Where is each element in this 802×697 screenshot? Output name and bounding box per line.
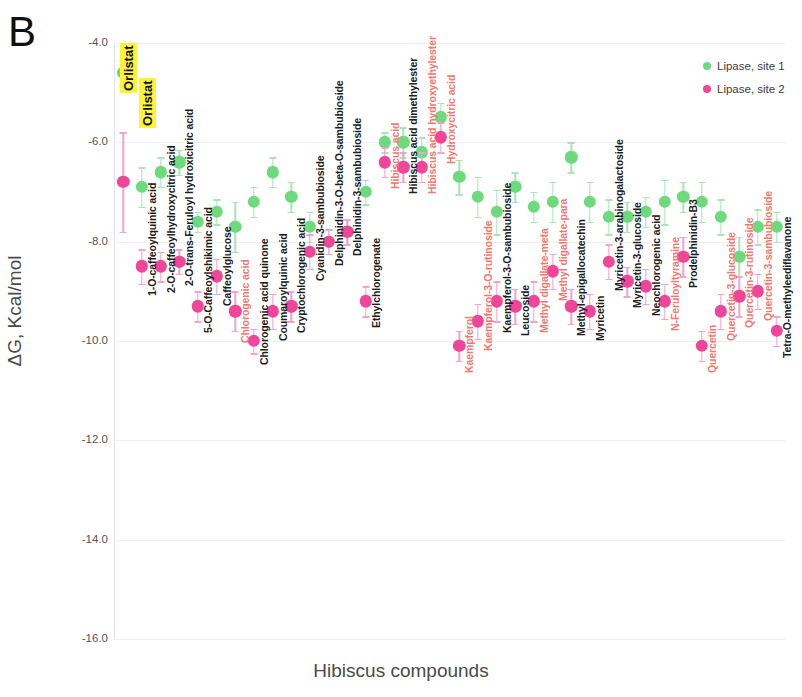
legend-item[interactable]: Lipase, site 1 [703, 60, 785, 72]
error-cap-bottom [699, 361, 706, 362]
error-cap-top [195, 291, 202, 292]
x-axis-label: Hibiscus acid hydroxyethylester [426, 36, 438, 194]
x-axis-label: Ethylchlorogenate [370, 238, 382, 328]
error-cap-bottom [549, 289, 556, 290]
y-tick: -16.0 [42, 632, 108, 646]
marker-site1 [658, 196, 670, 208]
error-cap-bottom [381, 177, 388, 178]
error-cap-bottom [643, 304, 650, 305]
error-cap-top [139, 167, 146, 168]
y-tick: -6.0 [42, 135, 108, 149]
error-cap-bottom [213, 294, 220, 295]
error-cap-top [680, 182, 687, 183]
error-cap-top [549, 182, 556, 183]
error-cap-top [419, 152, 426, 153]
error-cap-top [120, 132, 127, 133]
data-point [449, 160, 469, 195]
error-cap-top [232, 202, 239, 203]
error-cap-top [213, 199, 220, 200]
chart-root: B -4.0-6.0-8.0-10.0-12.0-14.0-16.0 ΔG, K… [0, 0, 802, 697]
legend-item[interactable]: Lipase, site 2 [703, 83, 785, 95]
y-tick-label: -8.0 [46, 235, 108, 247]
data-point [524, 192, 544, 222]
error-cap-bottom [587, 329, 594, 330]
orlistat-annotation: Orlistat [139, 78, 156, 128]
error-cap-bottom [157, 187, 164, 188]
y-tick: -8.0 [42, 235, 108, 249]
error-cap-bottom [755, 244, 762, 245]
error-cap-top [419, 137, 426, 138]
x-axis-label: 5-O-Caffeoylshikimic acid [202, 207, 214, 333]
x-axis-label: N-Feruloyltyramine [669, 237, 681, 331]
error-cap-top [643, 197, 650, 198]
error-cap-top [493, 190, 500, 191]
data-point [561, 142, 581, 172]
marker-site1 [714, 211, 726, 223]
error-cap-bottom [568, 172, 575, 173]
error-cap-top [269, 157, 276, 158]
x-axis-label: Myricetin-3-arabinogalactoside [613, 139, 625, 291]
error-cap-top [307, 234, 314, 235]
x-axis-title: Hibiscus compounds [0, 660, 802, 682]
error-cap-top [288, 182, 295, 183]
y-tick-label: -4.0 [46, 36, 108, 48]
x-axis-label: Kaempferol [463, 316, 475, 373]
error-cap-top [213, 259, 220, 260]
error-cap-bottom [717, 234, 724, 235]
x-axis-label: Quercetin-3-glucoside [725, 232, 737, 341]
marker-site1 [528, 201, 540, 213]
error-cap-top [325, 229, 332, 230]
error-cap-bottom [605, 279, 612, 280]
error-cap-bottom [251, 217, 258, 218]
x-axis-label: Methyl digallate-para [557, 199, 569, 301]
error-cap-top [475, 177, 482, 178]
x-axis-label: Myricetin-3-glucoside [631, 202, 643, 308]
error-cap-top [661, 284, 668, 285]
error-cap-bottom [139, 284, 146, 285]
y-tick-label: -10.0 [46, 334, 108, 346]
data-point [468, 177, 488, 217]
error-cap-bottom [269, 187, 276, 188]
x-axis-label: Prodelphinidin-B3 [687, 200, 699, 289]
error-cap-bottom [363, 316, 370, 317]
x-axis-label: Chlorogenic acid quinone [258, 239, 270, 366]
error-cap-bottom [195, 321, 202, 322]
x-axis-label: Quercetin-3-sambubioside [762, 191, 774, 321]
data-point [113, 132, 133, 231]
error-cap-bottom [568, 324, 575, 325]
error-cap-top [363, 180, 370, 181]
panel-label: B [8, 8, 36, 56]
y-tick: -14.0 [42, 533, 108, 547]
x-axis-label: Kaempferol-3-O-rutinoside [482, 220, 494, 351]
y-tick-label: -6.0 [46, 135, 108, 147]
error-cap-bottom [493, 234, 500, 235]
error-cap-bottom [419, 182, 426, 183]
error-cap-top [699, 182, 706, 183]
legend-label: Lipase, site 1 [717, 60, 785, 72]
x-axis-label: Hibiscus acid [389, 123, 401, 189]
error-cap-bottom [213, 224, 220, 225]
error-cap-top [773, 212, 780, 213]
legend-marker-icon [703, 62, 711, 70]
data-point [244, 187, 264, 217]
x-axis-label: Tetra-O-methyleediflavanone [781, 217, 793, 358]
y-tick: -4.0 [42, 36, 108, 50]
y-axis-title: ΔG, Kcal/mol [4, 191, 26, 431]
error-cap-top [755, 209, 762, 210]
error-cap-top [568, 142, 575, 143]
error-cap-top [643, 269, 650, 270]
legend-marker-icon [703, 85, 711, 93]
error-cap-bottom [605, 234, 612, 235]
error-cap-bottom [475, 217, 482, 218]
error-cap-top [475, 304, 482, 305]
error-cap-bottom [437, 152, 444, 153]
error-cap-bottom [307, 269, 314, 270]
data-point [580, 182, 600, 222]
marker-site1 [472, 191, 484, 203]
error-cap-bottom [699, 222, 706, 223]
error-cap-top [251, 187, 258, 188]
error-cap-top [195, 212, 202, 213]
x-axis-label: Methyl digallate-meta [538, 228, 550, 333]
error-cap-bottom [269, 329, 276, 330]
x-axis-label: Methyl-epigallocatechin [575, 219, 587, 336]
